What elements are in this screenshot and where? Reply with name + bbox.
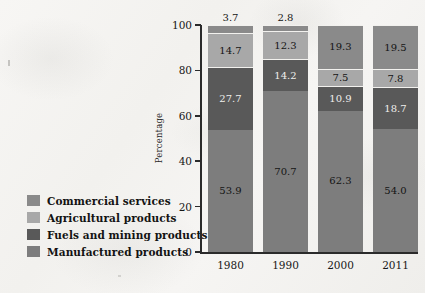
bar-segment-2011-3[interactable]: 19.5 — [373, 25, 418, 69]
x-axis-tick-label: 2000 — [318, 259, 363, 271]
bar-value-label: 2.8 — [263, 12, 308, 23]
x-axis-tick-label: 1980 — [208, 259, 253, 271]
legend-swatch-icon — [27, 212, 40, 223]
x-axis-tick-label: 1990 — [263, 259, 308, 271]
bar-value-label: 19.3 — [329, 42, 351, 52]
x-axis-line — [200, 252, 418, 254]
bar-segment-1990-1[interactable]: 14.2 — [263, 59, 308, 91]
bar-value-label: 62.3 — [329, 176, 351, 186]
bar-value-label: 54.0 — [384, 186, 406, 196]
legend-swatch-icon — [27, 229, 40, 240]
bar-segment-2000-1[interactable]: 10.9 — [318, 86, 363, 111]
bar-2000[interactable]: 19.37.510.962.3 — [318, 25, 363, 252]
bar-segment-1990-2[interactable]: 12.3 — [263, 31, 308, 59]
bar-value-label: 7.5 — [333, 73, 349, 83]
stacked-bar-chart: Commercial servicesAgricultural products… — [0, 0, 425, 293]
bar-segment-2011-0[interactable]: 54.0 — [373, 129, 418, 252]
legend-item-label: Agricultural products — [47, 212, 177, 224]
bar-value-label: 27.7 — [219, 94, 241, 104]
legend-item-2[interactable]: Fuels and mining products — [27, 226, 207, 243]
legend-item-3[interactable]: Manufactured products — [27, 243, 207, 260]
bar-value-label: 12.3 — [274, 41, 296, 51]
bar-value-label: 7.8 — [388, 74, 404, 84]
y-axis-tick — [195, 206, 201, 208]
bar-segment-2000-3[interactable]: 19.3 — [318, 25, 363, 69]
bar-value-label: 10.9 — [329, 94, 351, 104]
y-axis-tick-label: 60 — [179, 110, 192, 122]
bar-segment-1980-2[interactable]: 14.7 — [208, 33, 253, 66]
y-axis-tick — [195, 70, 201, 72]
legend-swatch-icon — [27, 246, 40, 257]
bar-segment-1980-3[interactable]: 3.7 — [208, 25, 253, 33]
bar-value-label: 18.7 — [384, 104, 406, 114]
y-axis-tick-label: 0 — [185, 246, 192, 258]
bar-value-label: 70.7 — [274, 167, 296, 177]
y-axis-tick-label: 20 — [179, 201, 192, 213]
bar-value-label: 14.2 — [274, 71, 296, 81]
legend-swatch-icon — [27, 195, 40, 206]
bar-segment-2000-2[interactable]: 7.5 — [318, 69, 363, 86]
bar-1990[interactable]: 2.812.314.270.7 — [263, 25, 308, 252]
bar-1980[interactable]: 3.714.727.753.9 — [208, 25, 253, 252]
y-axis-tick-label: 80 — [179, 64, 192, 76]
bar-value-label: 19.5 — [384, 43, 406, 53]
bar-segment-2011-1[interactable]: 18.7 — [373, 87, 418, 129]
bar-2011[interactable]: 19.57.818.754.0 — [373, 25, 418, 252]
bar-segment-1990-0[interactable]: 70.7 — [263, 91, 308, 251]
bar-segment-2011-2[interactable]: 7.8 — [373, 69, 418, 87]
bar-segment-1980-0[interactable]: 53.9 — [208, 130, 253, 252]
x-axis-tick-label: 2011 — [373, 259, 418, 271]
bar-segment-2000-0[interactable]: 62.3 — [318, 111, 363, 252]
y-axis-tick — [195, 251, 201, 253]
y-axis-tick-label: 40 — [179, 155, 192, 167]
y-axis-line — [200, 25, 202, 252]
y-axis-title: Percentage — [154, 113, 164, 164]
y-axis-tick-label: 100 — [172, 19, 192, 31]
bar-value-label: 3.7 — [208, 12, 253, 23]
y-axis-tick — [195, 115, 201, 117]
legend-item-label: Manufactured products — [47, 246, 188, 258]
bar-value-label: 53.9 — [219, 186, 241, 196]
bar-segment-1980-1[interactable]: 27.7 — [208, 67, 253, 130]
y-axis-tick — [195, 24, 201, 26]
bar-value-label: 14.7 — [219, 46, 241, 56]
legend-item-label: Fuels and mining products — [47, 229, 207, 241]
plot-area: Percentage 020406080100 3.714.727.753.92… — [200, 25, 412, 252]
y-axis-tick — [195, 160, 201, 162]
legend-item-label: Commercial services — [47, 195, 171, 207]
